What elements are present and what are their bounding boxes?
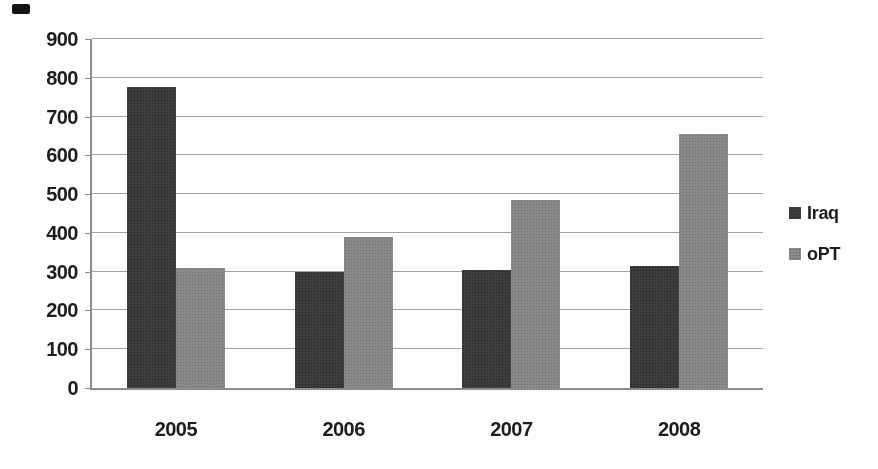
x-axis-label-2008: 2008: [634, 418, 724, 441]
y-axis-label-400: 400: [28, 223, 78, 243]
y-axis-tick-500: [85, 194, 90, 195]
legend-swatch-iraq: [789, 207, 801, 219]
y-axis-tick-400: [85, 233, 90, 234]
plot-area: 0100200300400500600700800900200520062007…: [90, 39, 763, 390]
y-axis-label-300: 300: [28, 262, 78, 282]
bar-opt-2006: [344, 237, 393, 388]
y-axis-label-700: 700: [28, 107, 78, 127]
legend-item-opt: oPT: [789, 247, 840, 261]
x-axis-label-2006: 2006: [299, 418, 389, 441]
y-axis-tick-600: [85, 155, 90, 156]
bar-iraq-2007: [462, 270, 511, 388]
bar-opt-2007: [511, 200, 560, 388]
bar-iraq-2006: [295, 272, 344, 388]
y-axis-label-200: 200: [28, 300, 78, 320]
y-axis-tick-0: [85, 388, 90, 389]
x-axis-label-2005: 2005: [131, 418, 221, 441]
bar-opt-2005: [176, 268, 225, 388]
legend-label-iraq: Iraq: [807, 206, 839, 220]
y-axis-tick-800: [85, 78, 90, 79]
gridline-700: [92, 116, 763, 117]
y-axis-label-600: 600: [28, 145, 78, 165]
gridline-400: [92, 232, 763, 233]
legend-swatch-opt: [789, 248, 801, 260]
legend: Iraq oPT: [789, 206, 840, 288]
y-axis-tick-200: [85, 310, 90, 311]
gridline-500: [92, 193, 763, 194]
x-axis-label-2007: 2007: [466, 418, 556, 441]
bar-iraq-2008: [630, 266, 679, 388]
y-axis-label-900: 900: [28, 29, 78, 49]
gridline-900: [92, 38, 763, 39]
scan-artifact-mark: [12, 4, 30, 14]
bar-opt-2008: [679, 134, 728, 388]
y-axis-tick-700: [85, 117, 90, 118]
y-axis-tick-300: [85, 272, 90, 273]
y-axis-tick-100: [85, 349, 90, 350]
y-axis-tick-900: [85, 39, 90, 40]
y-axis-label-800: 800: [28, 68, 78, 88]
legend-label-opt: oPT: [807, 247, 840, 261]
scanned-bar-chart-figure: 0100200300400500600700800900200520062007…: [0, 0, 878, 469]
bar-iraq-2005: [127, 87, 176, 388]
y-axis-label-100: 100: [28, 339, 78, 359]
y-axis-label-0: 0: [28, 378, 78, 398]
gridline-800: [92, 77, 763, 78]
y-axis-label-500: 500: [28, 184, 78, 204]
legend-item-iraq: Iraq: [789, 206, 840, 220]
gridline-600: [92, 154, 763, 155]
